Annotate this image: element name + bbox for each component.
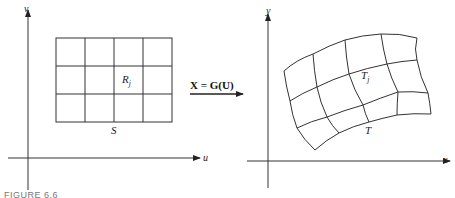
region-t-label: T	[365, 125, 371, 136]
grid-s	[56, 38, 172, 122]
figure-canvas: v u S Rj X = G(U) y x T Tj FIGURE 6.6	[0, 0, 455, 198]
cell-rj-label: Rj	[122, 74, 131, 88]
mapping-label: X = G(U)	[190, 80, 234, 91]
cell-tj-label: Tj	[361, 70, 369, 84]
diagram-svg	[0, 0, 455, 198]
cell-rj-main: R	[122, 73, 129, 85]
figure-caption: FIGURE 6.6	[4, 191, 58, 198]
region-s-label: S	[111, 125, 117, 136]
right-axes	[247, 14, 450, 188]
u-axis-label: u	[203, 153, 208, 163]
v-axis-label: v	[24, 4, 28, 14]
left-axes	[8, 10, 200, 190]
cell-rj-sub: j	[129, 79, 131, 88]
cell-tj-sub: j	[367, 75, 369, 84]
grid-t	[284, 34, 431, 150]
y-axis-label: y	[266, 6, 270, 16]
x-axis-label: x	[443, 155, 447, 165]
